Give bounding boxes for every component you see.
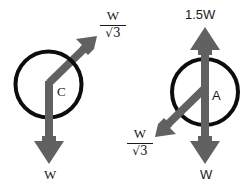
arrowhead-down-left-diagram <box>34 136 64 164</box>
left-body-center-label: C <box>57 85 66 98</box>
figure-canvas: W √3 C W 1.5W A W √3 W <box>0 0 252 189</box>
left-tension-denominator: √3 <box>100 26 126 41</box>
right-body-center-label: A <box>212 89 221 102</box>
left-tension-arrow <box>49 36 97 83</box>
right-tension-denominator: √3 <box>127 144 153 159</box>
right-weight-label: W <box>200 168 212 181</box>
diagram-left <box>16 36 98 164</box>
right-tension-arrow <box>155 88 205 137</box>
right-tension-numerator: W <box>127 127 153 143</box>
right-applied-force-label: 1.5W <box>185 8 215 21</box>
left-tension-numerator: W <box>100 9 126 25</box>
diagram-right <box>155 27 238 164</box>
right-tension-label: W √3 <box>127 127 153 159</box>
left-weight-label: W <box>44 168 56 181</box>
left-tension-label: W √3 <box>100 9 126 41</box>
